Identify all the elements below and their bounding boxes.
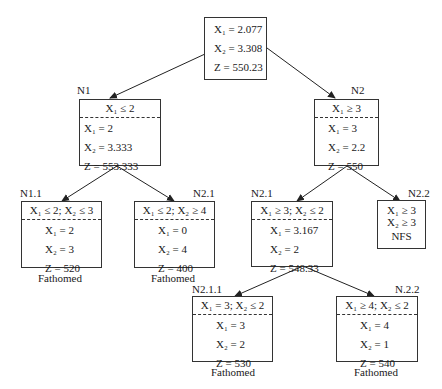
n-2-2-x1: X₁ = 4	[360, 316, 417, 335]
root-x1: X₁ = 2.077	[214, 20, 266, 39]
n1-constraint: X₁ ≤ 2	[80, 100, 160, 118]
root-x2: X₂ = 3.308	[214, 39, 266, 58]
node-label-n2: N2	[351, 84, 364, 96]
n-2-2-status: Fathomed	[354, 366, 398, 378]
root-z: Z = 550.23	[214, 58, 266, 77]
n2-z: Z = 550	[328, 157, 378, 176]
node-label-n2-2: N2.2	[408, 187, 430, 199]
node-label-n2-1-left: N2.1	[193, 187, 215, 199]
node-n1: X₁ ≤ 2 X₁ = 2 X₂ = 3.333 Z = 553.333	[79, 99, 161, 166]
node-label-n-2-2: N.2.2	[395, 283, 419, 295]
node-n2-1-right: X₁ ≥ 3; X₂ ≤ 2 X₁ = 3.167 X₂ = 2 Z = 548…	[251, 201, 333, 267]
root-node: X₁ = 2.077 X₂ = 3.308 Z = 550.23	[204, 17, 267, 80]
n-2-2-constraint: X₁ ≥ 4; X₂ ≤ 2	[337, 297, 417, 315]
node-n2: X₁ ≥ 3 X₁ = 3 X₂ = 2.2 Z = 550	[314, 99, 379, 166]
n1-x2: X₂ = 3.333	[84, 138, 160, 157]
n2-1-1-x2: X₂ = 2	[216, 335, 272, 354]
n1-1-x2: X₂ = 3	[45, 240, 101, 259]
n1-1-status: Fathomed	[38, 272, 82, 284]
node-label-n1-1: N1.1	[20, 187, 42, 199]
n2-x1: X₁ = 3	[328, 119, 378, 138]
n2-2-x1-constraint: X₁ ≥ 3	[378, 204, 425, 216]
n2-x2: X₂ = 2.2	[328, 138, 378, 157]
n2-1-1-constraint: X₁ = 3; X₂ ≤ 2	[193, 297, 272, 315]
n-2-2-x2: X₂ = 1	[360, 335, 417, 354]
n2-2-status: NFS	[378, 228, 425, 244]
n1-x1: X₁ = 2	[84, 119, 160, 138]
n2-1-right-z: Z = 548.33	[270, 259, 332, 278]
n2-1-right-x2: X₂ = 2	[270, 240, 332, 259]
node-label-n2-1-right: N2.1	[251, 187, 273, 199]
node-n2-1-1: X₁ = 3; X₂ ≤ 2 X₁ = 3 X₂ = 2 Z = 530	[192, 296, 273, 362]
n2-2-x2-constraint: X₂ ≥ 3	[378, 216, 425, 228]
n1-1-constraint: X₁ ≤ 2; X₂ ≤ 3	[22, 202, 101, 220]
node-label-n1: N1	[77, 84, 90, 96]
n1-1-x1: X₁ = 2	[45, 221, 101, 240]
n1-z: Z = 553.333	[84, 157, 160, 176]
n2-1-right-x1: X₁ = 3.167	[270, 221, 332, 240]
node-n2-2: X₁ ≥ 3 X₂ ≥ 3 NFS	[377, 200, 426, 249]
n2-1-1-status: Fathomed	[211, 366, 255, 378]
n2-1-left-x1: X₁ = 0	[158, 221, 214, 240]
node-n1-1: X₁ ≤ 2; X₂ ≤ 3 X₁ = 2 X₂ = 3 Z = 520	[21, 201, 102, 268]
node-label-n2-1-1: N2.1.1	[192, 283, 222, 295]
n2-1-left-constraint: X₁ ≤ 2; X₂ ≥ 4	[135, 202, 214, 220]
n2-1-1-x1: X₁ = 3	[216, 316, 272, 335]
n2-constraint: X₁ ≥ 3	[315, 100, 378, 118]
node-n2-1-left: X₁ ≤ 2; X₂ ≥ 4 X₁ = 0 X₂ = 4 Z = 400	[134, 201, 215, 268]
n2-1-left-status: Fathomed	[151, 272, 195, 284]
n2-1-left-x2: X₂ = 4	[158, 240, 214, 259]
node-n-2-2: X₁ ≥ 4; X₂ ≤ 2 X₁ = 4 X₂ = 1 Z = 540	[336, 296, 418, 362]
n2-1-right-constraint: X₁ ≥ 3; X₂ ≤ 2	[252, 202, 332, 220]
